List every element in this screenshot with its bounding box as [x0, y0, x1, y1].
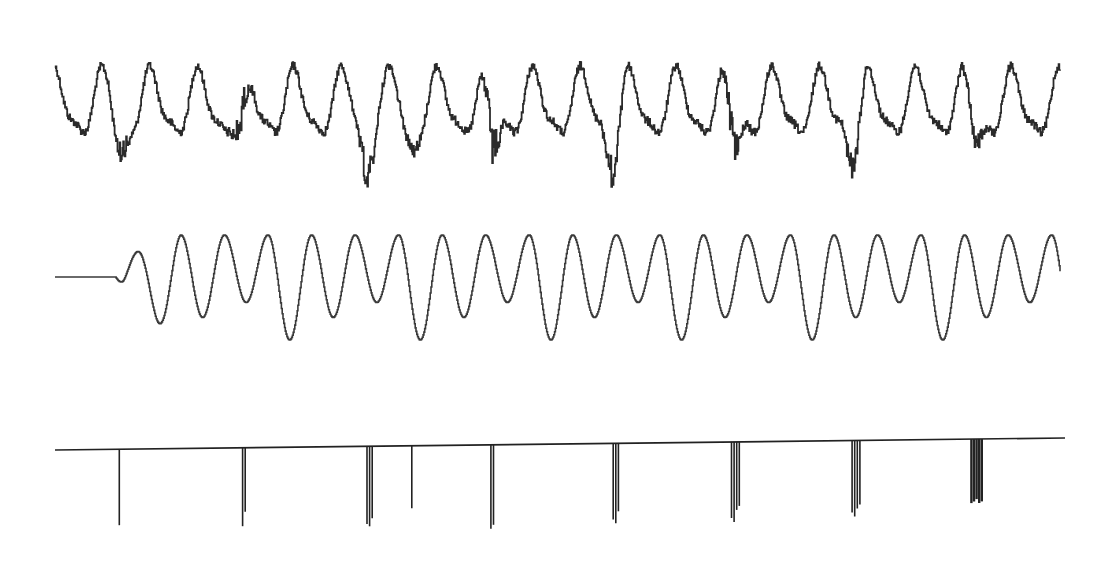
- composite-signal-trace: [55, 62, 1060, 187]
- spike-cluster: [491, 445, 494, 529]
- spike-cluster: [732, 442, 740, 522]
- spike-cluster: [367, 446, 372, 526]
- filtered-sinusoid-line: [55, 235, 1060, 340]
- spike-cluster: [971, 439, 981, 503]
- impulse-train-trace: [55, 438, 1065, 529]
- spike-cluster: [852, 440, 860, 516]
- filtered-sinusoid-trace: [55, 235, 1060, 340]
- spike-cluster: [243, 448, 246, 527]
- spike-cluster: [613, 443, 618, 523]
- signal-plot: [0, 0, 1119, 566]
- impulse-baseline: [55, 438, 1065, 450]
- composite-signal-line: [55, 62, 1060, 187]
